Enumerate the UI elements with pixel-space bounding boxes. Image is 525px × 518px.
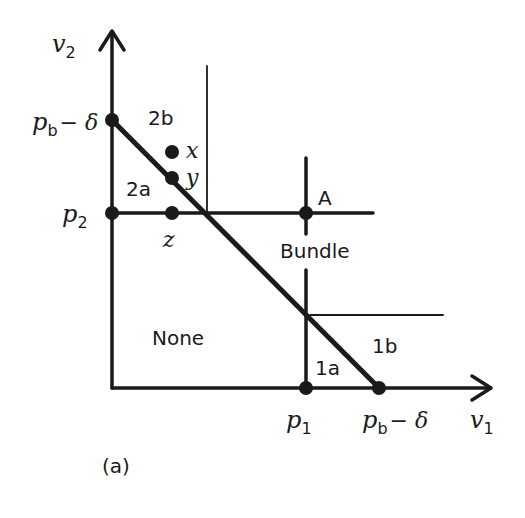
dot-y bbox=[165, 171, 179, 185]
point-A-label: A bbox=[318, 186, 332, 210]
region-1b-label: 1b bbox=[372, 334, 397, 358]
region-1a-label: 1a bbox=[315, 356, 340, 380]
tick-pb-delta-y: pb− δ bbox=[32, 108, 98, 140]
dot-x bbox=[165, 145, 179, 159]
y-axis-label: v2 bbox=[52, 30, 76, 62]
bundling-diagram: v2 v1 pb− δ p2 p1 pb− δ 2b 2a Bundle Non… bbox=[0, 0, 525, 518]
region-2a-label: 2a bbox=[126, 177, 151, 201]
dot-pb-delta-y bbox=[105, 113, 119, 127]
dot-pb-delta-x bbox=[372, 381, 386, 395]
x-axis-label: v1 bbox=[470, 406, 494, 438]
tick-p1: p1 bbox=[286, 406, 312, 438]
tick-pb-delta-x: pb− δ bbox=[362, 406, 428, 438]
point-y-label: y bbox=[185, 165, 199, 190]
region-none-label: None bbox=[152, 326, 204, 350]
point-x-label: x bbox=[186, 138, 199, 163]
dot-z bbox=[165, 206, 179, 220]
figure-caption: (a) bbox=[102, 454, 130, 478]
region-bundle-label: Bundle bbox=[280, 239, 350, 263]
point-z-label: z bbox=[162, 227, 175, 252]
region-2b-label: 2b bbox=[148, 106, 173, 130]
tick-p2: p2 bbox=[62, 200, 88, 232]
dot-p1 bbox=[299, 381, 313, 395]
dot-A bbox=[299, 206, 313, 220]
dot-p2 bbox=[105, 206, 119, 220]
